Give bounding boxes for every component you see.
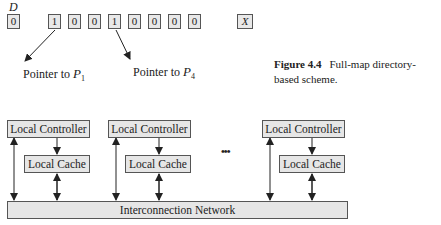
local-controller-1: Local Controller xyxy=(7,120,90,138)
local-cache-3: Local Cache xyxy=(279,155,345,173)
local-cache-2: Local Cache xyxy=(125,155,191,173)
local-cache-1: Local Cache xyxy=(24,155,90,173)
local-controller-2: Local Controller xyxy=(108,120,191,138)
interconnection-network: Interconnection Network xyxy=(7,201,348,219)
more-nodes-ellipsis: ••• xyxy=(221,145,230,157)
local-controller-3: Local Controller xyxy=(262,120,345,138)
connector-arrows xyxy=(0,0,441,225)
